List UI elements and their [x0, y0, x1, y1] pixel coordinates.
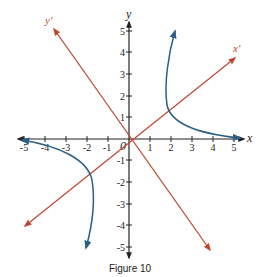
hyperbola-lower-branch	[22, 140, 93, 248]
y-axis-label: y	[125, 7, 132, 21]
x-tick-label: 3	[190, 142, 195, 153]
y-tick-label: 4	[120, 47, 125, 58]
y-tick-label: -3	[117, 199, 125, 210]
y-tick-label: -5	[117, 242, 125, 253]
x-tick-label: -5	[20, 142, 28, 153]
hyperbola-upper-branch	[166, 31, 240, 138]
x-tick-label: 4	[211, 142, 216, 153]
rotated-y-axis-label: y'	[44, 14, 53, 26]
rotated-hyperbola-figure: -5 -4 -3 -2 -1 1 2 3 4 5 5 4 3 2 1 -1 -2…	[0, 0, 265, 277]
x-tick-label: -1	[103, 142, 111, 153]
y-tick-label: 1	[120, 112, 125, 123]
y-tick-label: 2	[120, 91, 125, 102]
y-tick-label: -1	[117, 155, 125, 166]
rotated-x-axis-label: x'	[232, 42, 241, 54]
x-tick-label: -2	[83, 142, 91, 153]
x-axis-label: x	[246, 131, 253, 145]
x-tick-label: 5	[232, 142, 237, 153]
y-tick-label: 5	[120, 26, 125, 37]
y-tick-label: 3	[120, 69, 125, 80]
y-tick-label: -2	[117, 177, 125, 188]
y-tick-label: -4	[117, 220, 125, 231]
rotated-x-axis	[25, 58, 235, 226]
x-tick-label: 1	[148, 142, 153, 153]
figure-caption: Figure 10	[109, 263, 152, 274]
x-tick-label: 2	[169, 142, 174, 153]
